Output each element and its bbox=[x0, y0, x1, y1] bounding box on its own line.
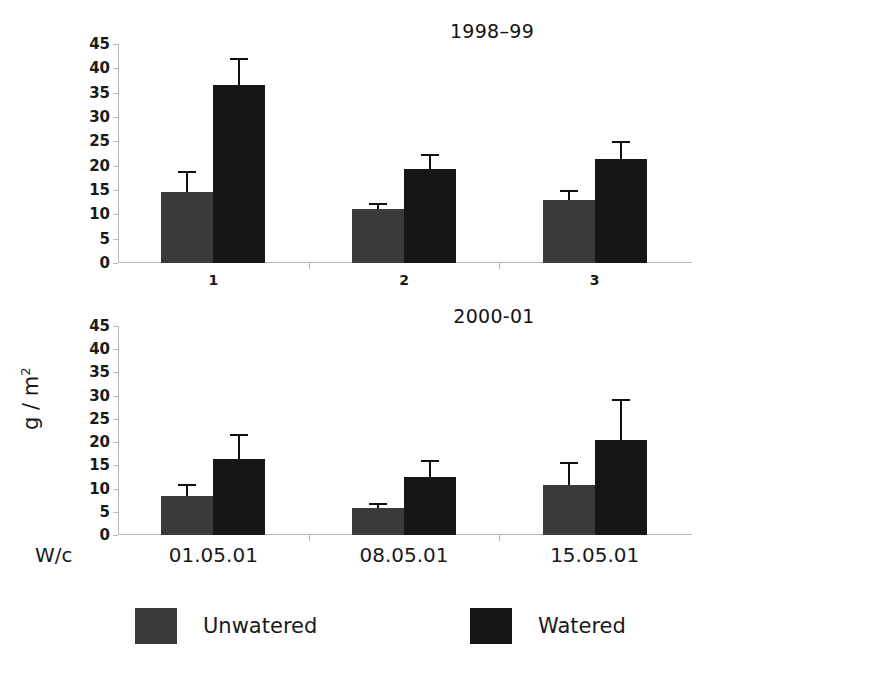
error-bar-cap bbox=[560, 462, 578, 464]
error-bar-cap bbox=[369, 203, 387, 205]
bar-watered bbox=[595, 159, 647, 263]
y-axis-title-exponent: 2 bbox=[18, 368, 33, 376]
chart-title-bottom: 2000-01 bbox=[453, 305, 535, 327]
y-tick-label: 0 bbox=[100, 254, 110, 272]
category-labels-bottom: 01.05.0108.05.0115.05.01 bbox=[0, 543, 760, 573]
y-tick-mark bbox=[113, 489, 118, 490]
y-tick-mark bbox=[113, 465, 118, 466]
y-tick-label: 5 bbox=[100, 503, 110, 521]
y-tick-mark bbox=[113, 442, 118, 443]
legend-label-unwatered: Unwatered bbox=[203, 614, 317, 638]
error-bar-stem bbox=[620, 143, 622, 159]
error-bar-cap bbox=[421, 460, 439, 462]
error-bar-stem bbox=[238, 436, 240, 459]
y-tick-mark bbox=[113, 44, 118, 45]
bar-watered bbox=[404, 169, 456, 263]
y-tick-mark bbox=[113, 166, 118, 167]
y-tick-label: 25 bbox=[89, 410, 110, 428]
y-tick-label: 35 bbox=[89, 363, 110, 381]
y-tick-label: 20 bbox=[89, 157, 110, 175]
error-bar-cap bbox=[560, 190, 578, 192]
y-tick-label: 40 bbox=[89, 59, 110, 77]
y-tick-label: 30 bbox=[89, 108, 110, 126]
y-tick-label: 45 bbox=[89, 35, 110, 53]
error-bar-cap bbox=[369, 503, 387, 505]
x-category-label: 01.05.01 bbox=[169, 543, 258, 567]
wc-axis-label: W/c bbox=[35, 543, 73, 567]
bar-unwatered bbox=[352, 508, 404, 535]
error-bar-cap bbox=[612, 399, 630, 401]
legend-item-watered: Watered bbox=[470, 608, 626, 644]
error-bar-cap bbox=[421, 154, 439, 156]
y-tick-mark bbox=[113, 214, 118, 215]
bar-watered bbox=[404, 477, 456, 535]
y-tick-label: 0 bbox=[100, 526, 110, 544]
y-tick-label: 35 bbox=[89, 84, 110, 102]
y-tick-label: 15 bbox=[89, 181, 110, 199]
error-bar-stem bbox=[568, 192, 570, 199]
y-tick-mark bbox=[113, 239, 118, 240]
y-tick-label: 25 bbox=[89, 132, 110, 150]
x-axis-category-separator bbox=[309, 535, 310, 541]
bar-unwatered bbox=[543, 200, 595, 263]
x-axis-category-separator bbox=[499, 535, 500, 541]
y-axis-line-top bbox=[118, 44, 119, 263]
y-tick-mark bbox=[113, 512, 118, 513]
y-axis-title-text: g / m bbox=[19, 376, 43, 430]
chart-title-top: 1998–99 bbox=[450, 20, 534, 42]
bar-unwatered bbox=[352, 209, 404, 263]
y-axis-line-bottom bbox=[118, 326, 119, 535]
x-category-label: 3 bbox=[590, 272, 600, 288]
category-labels-top: 123 bbox=[0, 272, 760, 296]
x-category-label: 08.05.01 bbox=[359, 543, 448, 567]
y-tick-mark bbox=[113, 141, 118, 142]
error-bar-cap bbox=[230, 434, 248, 436]
bar-watered bbox=[213, 459, 265, 535]
y-tick-mark bbox=[113, 117, 118, 118]
error-bar-stem bbox=[429, 156, 431, 168]
y-tick-mark bbox=[113, 535, 118, 536]
legend-swatch-watered bbox=[470, 608, 512, 644]
error-bar-stem bbox=[186, 486, 188, 496]
error-bar-stem bbox=[238, 60, 240, 86]
x-category-label: 15.05.01 bbox=[550, 543, 639, 567]
bar-watered bbox=[213, 85, 265, 263]
y-tick-mark bbox=[113, 68, 118, 69]
y-tick-label: 40 bbox=[89, 340, 110, 358]
plot-area-top: 051015202530354045 bbox=[118, 44, 690, 263]
y-tick-label: 30 bbox=[89, 387, 110, 405]
error-bar-stem bbox=[377, 505, 379, 508]
plot-area-bottom: 051015202530354045 bbox=[118, 326, 690, 535]
y-tick-label: 45 bbox=[89, 317, 110, 335]
y-tick-mark bbox=[113, 419, 118, 420]
error-bar-stem bbox=[568, 464, 570, 485]
bar-watered bbox=[595, 440, 647, 535]
error-bar-stem bbox=[377, 205, 379, 210]
bar-unwatered bbox=[161, 192, 213, 263]
error-bar-stem bbox=[620, 401, 622, 440]
y-tick-mark bbox=[113, 396, 118, 397]
legend: Unwatered Watered bbox=[0, 600, 760, 656]
legend-swatch-unwatered bbox=[135, 608, 177, 644]
y-tick-label: 5 bbox=[100, 230, 110, 248]
error-bar-stem bbox=[186, 173, 188, 192]
y-tick-mark bbox=[113, 190, 118, 191]
y-tick-mark bbox=[113, 349, 118, 350]
legend-item-unwatered: Unwatered bbox=[135, 608, 317, 644]
y-tick-mark bbox=[113, 372, 118, 373]
error-bar-cap bbox=[230, 58, 248, 60]
error-bar-cap bbox=[178, 484, 196, 486]
y-tick-mark bbox=[113, 263, 118, 264]
y-tick-label: 20 bbox=[89, 433, 110, 451]
x-axis-category-separator bbox=[309, 263, 310, 269]
x-category-label: 2 bbox=[399, 272, 409, 288]
bar-unwatered bbox=[543, 485, 595, 535]
y-tick-label: 10 bbox=[89, 480, 110, 498]
error-bar-stem bbox=[429, 462, 431, 477]
error-bar-cap bbox=[178, 171, 196, 173]
y-tick-label: 10 bbox=[89, 205, 110, 223]
error-bar-cap bbox=[612, 141, 630, 143]
x-axis-category-separator bbox=[499, 263, 500, 269]
y-tick-mark bbox=[113, 326, 118, 327]
figure-root: 1998–99 051015202530354045 123 2000-01 0… bbox=[0, 0, 874, 675]
